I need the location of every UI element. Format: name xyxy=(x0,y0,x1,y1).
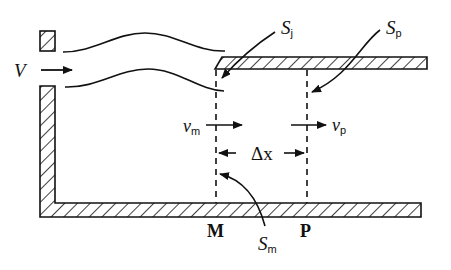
section-j-leader xyxy=(222,32,275,78)
duct-left-and-bottom-wall xyxy=(40,86,421,217)
inlet-wall-upper-block xyxy=(40,31,55,51)
duct-top-wall xyxy=(215,57,427,69)
point-p-label: P xyxy=(300,221,311,241)
section-j-label: Sj xyxy=(281,17,293,39)
section-p-label: Sp xyxy=(386,17,402,39)
delta-x-label: Δx xyxy=(251,143,273,164)
section-m-label: Sm xyxy=(258,233,277,255)
jet-boundary-lower xyxy=(65,69,224,91)
section-m-leader xyxy=(220,174,265,226)
velocity-m-label: vm xyxy=(183,116,200,137)
point-m-label: M xyxy=(207,221,224,241)
velocity-p-label: vp xyxy=(332,115,346,136)
inlet-velocity-label: V xyxy=(14,60,28,81)
jet-duct-diagram: V vm vp Δx Sj Sp Sm M P xyxy=(0,0,451,270)
jet-boundary-upper xyxy=(63,33,225,52)
